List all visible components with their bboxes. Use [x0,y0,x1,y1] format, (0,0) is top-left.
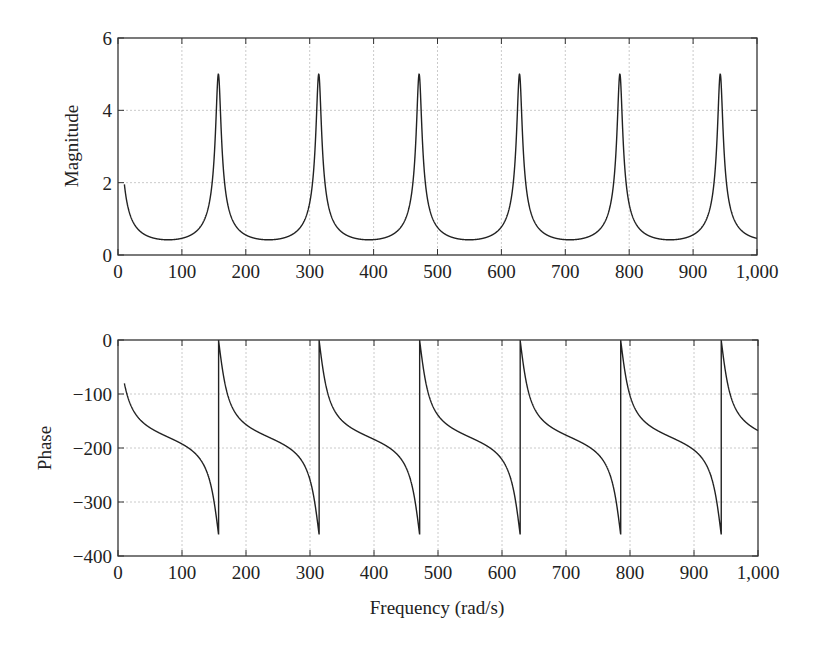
phase-x-tick-label: 900 [680,562,709,583]
phase-x-tick-label: 0 [113,562,123,583]
phase-y-tick-label: −200 [73,438,112,459]
magnitude-x-tick-label: 100 [168,261,197,282]
magnitude-curve [124,74,757,240]
magnitude-y-tick-label: 2 [103,173,113,194]
magnitude-x-tick-label: 600 [487,261,516,282]
magnitude-x-tick-label: 900 [679,261,708,282]
magnitude-x-tick-label: 1,000 [736,261,779,282]
magnitude-y-tick-label: 0 [103,245,113,266]
phase-plot: 01002003004005006007008009001,000 −400−3… [34,330,779,619]
phase-x-tick-label: 1,000 [737,562,780,583]
magnitude-grid [118,38,757,255]
magnitude-x-tick-label: 800 [615,261,644,282]
phase-curve [124,340,758,534]
phase-y-tick-label: −400 [73,546,112,567]
magnitude-x-tick-labels: 01002003004005006007008009001,000 [113,261,778,282]
figure-canvas: 01002003004005006007008009001,000 0246 M… [0,0,821,650]
bode-figure: 01002003004005006007008009001,000 0246 M… [0,0,821,650]
magnitude-y-tick-labels: 0246 [103,28,113,266]
magnitude-x-tick-label: 400 [359,261,388,282]
phase-x-tick-labels: 01002003004005006007008009001,000 [113,562,779,583]
magnitude-y-tick-label: 4 [103,100,113,121]
magnitude-x-tick-label: 0 [113,261,123,282]
magnitude-x-tick-label: 500 [423,261,452,282]
magnitude-plot: 01002003004005006007008009001,000 0246 M… [61,28,778,282]
magnitude-x-tick-label: 300 [295,261,324,282]
phase-y-tick-label: 0 [103,330,113,351]
magnitude-x-tick-label: 200 [232,261,261,282]
phase-x-tick-label: 300 [296,562,325,583]
magnitude-y-tick-label: 6 [103,28,113,49]
phase-y-tick-label: −100 [73,384,112,405]
phase-y-tick-label: −300 [73,492,112,513]
phase-y-axis-label: Phase [34,426,55,470]
phase-x-tick-label: 500 [424,562,453,583]
phase-x-tick-label: 400 [360,562,389,583]
phase-grid [118,340,758,556]
frequency-x-axis-label: Frequency (rad/s) [370,597,505,619]
phase-y-tick-labels: −400−300−200−1000 [73,330,112,567]
phase-x-tick-label: 700 [552,562,581,583]
phase-x-tick-label: 800 [616,562,645,583]
magnitude-y-axis-label: Magnitude [61,105,82,187]
phase-x-tick-label: 100 [168,562,197,583]
magnitude-x-tick-label: 700 [551,261,580,282]
phase-x-tick-label: 200 [232,562,261,583]
phase-x-tick-label: 600 [488,562,517,583]
